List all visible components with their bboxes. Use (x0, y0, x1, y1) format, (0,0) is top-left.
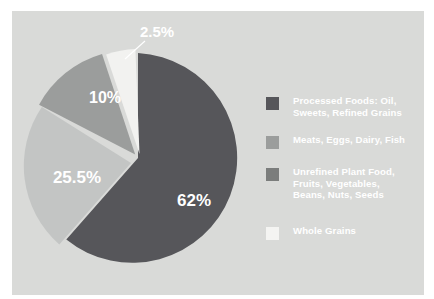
legend-swatch-meats-eggs-dairy-fish (266, 136, 279, 149)
legend-label-unrefined-plant-food: Unrefined Plant Food, Fruits, Vegetables… (293, 166, 424, 201)
legend-swatch-unrefined-plant-food (266, 168, 279, 181)
legend-swatch-processed-foods (266, 97, 279, 110)
pie-chart-plot-area: 62% 25.5% 10% 2.5% Processed Foods: Oil,… (12, 11, 424, 295)
chart-figure: 62% 25.5% 10% 2.5% Processed Foods: Oil,… (0, 0, 434, 299)
slice-label-meats-eggs-dairy-fish: 10% (89, 89, 121, 106)
legend-label-whole-grains: Whole Grains (293, 225, 424, 237)
slice-label-processed-foods: 62% (177, 191, 211, 210)
slice-label-unrefined-plant-food: 25.5% (53, 168, 101, 187)
legend-swatch-whole-grains (266, 227, 279, 240)
slice-label-whole-grains: 2.5% (140, 23, 174, 40)
legend-label-processed-foods: Processed Foods: Oil, Sweets, Refined Gr… (293, 95, 424, 118)
pie-chart-svg: 62% 25.5% 10% 2.5% (12, 11, 424, 295)
legend-label-meats-eggs-dairy-fish: Meats, Eggs, Dairy, Fish (293, 134, 424, 146)
